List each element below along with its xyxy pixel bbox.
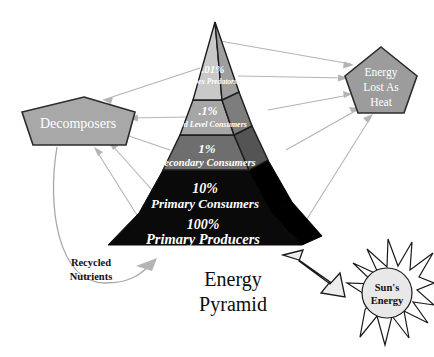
tier-percent-apex-predators: .01% [202,63,225,75]
energy-lost-label-line-3: Heat [370,96,393,108]
sun-disc [362,268,412,318]
suns-energy-node[interactable]: Sun's Energy [347,239,434,345]
suns-energy-label-line-2: Energy [371,295,404,306]
flow-arrow-apex-to-decomposers [103,68,200,104]
flow-arrow-primary-producers-to-decomposers [94,147,140,220]
energy-lost-label-line-2: Lost As [363,81,399,93]
flow-arrow-primary-producers-to-heat [300,114,373,230]
page-title: Energy Pyramid [199,268,267,316]
tier-percent-primary-producers: 100% [187,217,220,232]
tier-label-apex-predators: Apex Predators [188,77,237,86]
energy-lost-label-line-1: Energy [364,66,397,79]
tier-percent-third-level-consumers: .1% [199,104,218,118]
diagram-title-line-2: Pyramid [199,293,267,316]
decomposers-label: Decomposers [40,116,116,131]
recycled-nutrients-arrow-head [136,258,157,271]
flow-arrow-primary-consumers-to-heat [286,107,360,150]
sun-to-pyramid-arrow [283,250,345,297]
pyramid-shape: .01% Apex Predators .1% Third Level Cons… [108,22,322,247]
tier-label-secondary-consumers: Secondary Consumers [158,157,255,168]
decomposers-node[interactable]: Decomposers [22,97,135,145]
tier-percent-secondary-consumers: 1% [198,141,216,156]
tier-label-third-level-consumers: Third Level Consumers [169,120,247,129]
diagram-canvas: .01% Apex Predators .1% Third Level Cons… [0,0,434,357]
pyramid-tier-apex-predators[interactable] [193,22,239,100]
recycled-nutrients-line-1: Recycled [71,257,111,268]
flow-arrow-secondary-to-heat [268,91,352,110]
tier-label-primary-producers: Primary Producers [146,231,260,247]
tier-percent-primary-consumers: 10% [192,181,218,196]
energy-pyramid-diagram: .01% Apex Predators .1% Third Level Cons… [0,0,434,357]
tier-label-primary-consumers: Primary Consumers [151,196,259,211]
diagram-title-line-1: Energy [204,268,261,291]
recycled-nutrients-line-2: Nutrients [70,271,113,282]
flow-arrow-primary-consumers-to-decomposers [109,142,152,190]
suns-energy-label-line-1: Sun's [375,282,400,293]
flow-arrow-apex-to-heat [214,40,354,69]
sun-energy-block-arrow-icon [283,250,345,297]
flow-arrow-third-to-heat [238,75,348,82]
energy-lost-node[interactable]: Energy Lost As Heat [345,47,417,113]
